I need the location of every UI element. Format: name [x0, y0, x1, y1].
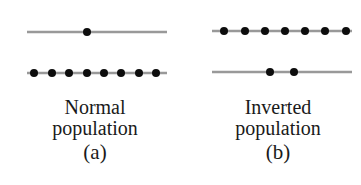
particle-dot — [65, 69, 73, 77]
panel-inverted-population — [212, 27, 352, 76]
particle-dot — [266, 68, 274, 76]
particle-dot — [100, 69, 108, 77]
particle-dot — [152, 69, 160, 77]
caption-inverted-population: Inverted population (b) — [208, 97, 348, 163]
particle-dot — [301, 27, 309, 35]
particle-dot — [83, 69, 91, 77]
particle-dot — [83, 28, 91, 36]
particle-dot — [241, 27, 249, 35]
panel-label-b: (b) — [208, 142, 348, 163]
caption-title-line1: Normal — [25, 97, 165, 118]
particle-dot — [342, 27, 350, 35]
caption-normal-population: Normal population (a) — [25, 97, 165, 163]
particle-dot — [135, 69, 143, 77]
panel-label-a: (a) — [25, 142, 165, 163]
particle-dot — [261, 27, 269, 35]
caption-title-line2: population — [25, 118, 165, 139]
caption-title-line1: Inverted — [208, 97, 348, 118]
panel-normal-population — [27, 28, 167, 77]
particle-dot — [30, 69, 38, 77]
particle-dot — [48, 69, 56, 77]
particle-dot — [117, 69, 125, 77]
particle-dot — [290, 68, 298, 76]
particle-dot — [220, 27, 228, 35]
particle-dot — [321, 27, 329, 35]
particle-dot — [281, 27, 289, 35]
caption-title-line2: population — [208, 118, 348, 139]
